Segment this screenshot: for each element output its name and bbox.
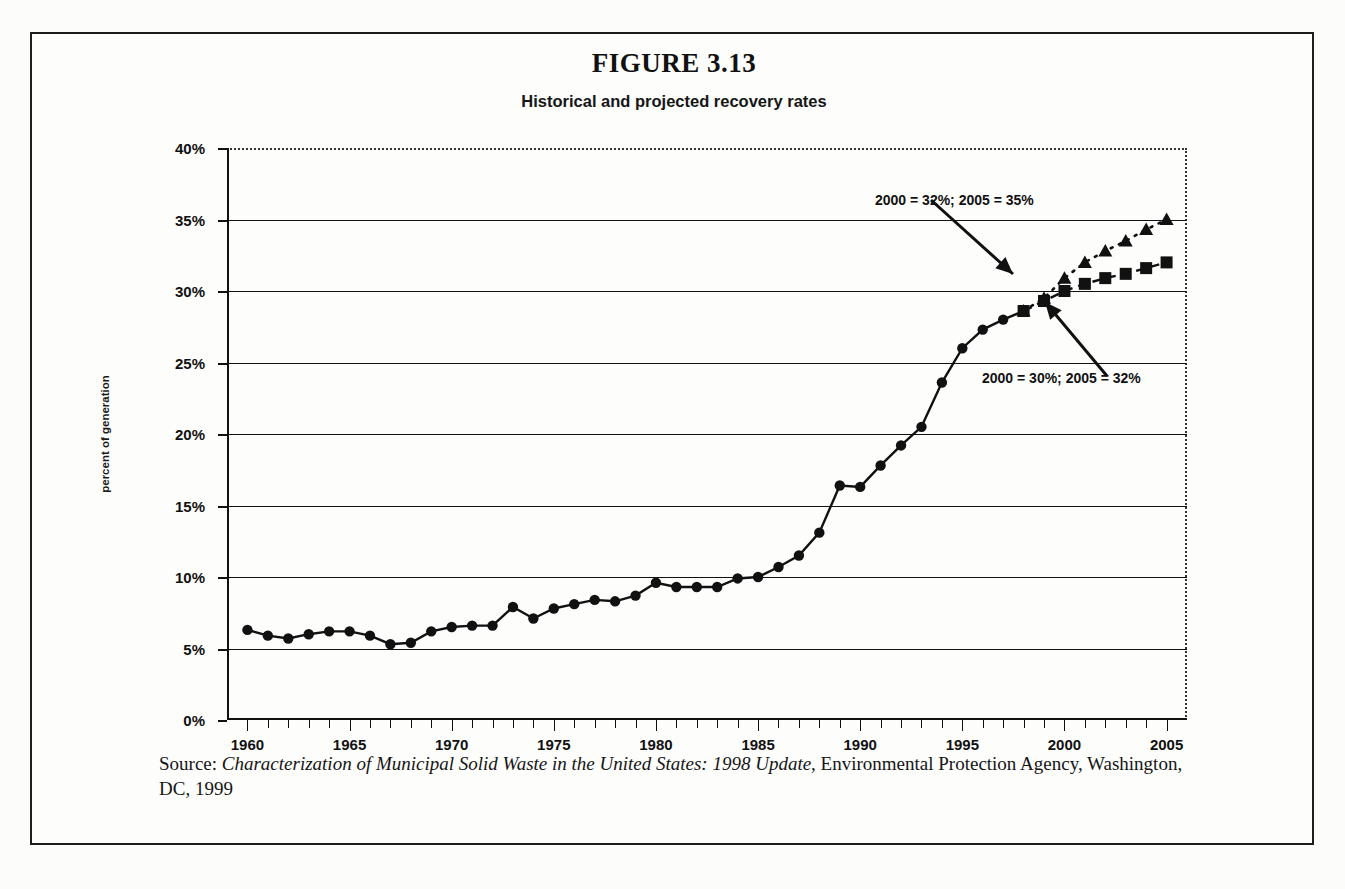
x-tick-minor <box>493 720 494 728</box>
data-point-circle <box>446 622 456 632</box>
x-tick-major <box>350 720 351 731</box>
x-tick-minor <box>1024 720 1025 728</box>
data-point-triangle <box>1098 244 1112 257</box>
data-point-circle <box>467 620 477 630</box>
data-point-circle <box>610 596 620 606</box>
data-point-circle <box>957 343 967 353</box>
y-tick-label: 30% <box>175 283 205 300</box>
x-tick-minor <box>533 720 534 728</box>
data-point-circle <box>651 578 661 588</box>
y-tick-label: 5% <box>183 640 205 657</box>
x-tick-minor <box>778 720 779 728</box>
data-point-circle <box>365 630 375 640</box>
data-point-circle <box>569 599 579 609</box>
data-point-triangle <box>1119 234 1133 247</box>
figure-number-label: FIGURE 3.13 <box>32 48 1316 79</box>
x-tick-major <box>656 720 657 731</box>
x-tick-minor <box>983 720 984 728</box>
x-tick-major <box>452 720 453 731</box>
x-tick-minor <box>472 720 473 728</box>
data-point-circle <box>753 572 763 582</box>
data-point-circle <box>712 582 722 592</box>
low-projection-arrow <box>1045 302 1107 376</box>
x-tick-major <box>758 720 759 731</box>
data-point-circle <box>385 639 395 649</box>
x-tick-minor <box>799 720 800 728</box>
data-point-circle <box>916 422 926 432</box>
y-tick <box>218 720 227 722</box>
x-tick-minor <box>840 720 841 728</box>
x-tick-minor <box>1003 720 1004 728</box>
x-tick-minor <box>676 720 677 728</box>
figure-page: FIGURE 3.13 Historical and projected rec… <box>0 0 1345 889</box>
x-tick-major <box>860 720 861 731</box>
y-axis-title: percent of generation <box>99 375 111 493</box>
data-point-circle <box>794 550 804 560</box>
data-point-circle <box>896 440 906 450</box>
x-tick-minor <box>574 720 575 728</box>
x-tick-major <box>962 720 963 731</box>
data-point-circle <box>692 582 702 592</box>
x-tick-minor <box>370 720 371 728</box>
figure-frame: FIGURE 3.13 Historical and projected rec… <box>30 32 1314 845</box>
data-point-square <box>1120 268 1132 280</box>
y-tick <box>218 291 227 293</box>
data-point-square <box>1058 285 1070 297</box>
data-point-circle <box>998 314 1008 324</box>
data-point-triangle <box>1139 223 1153 236</box>
data-point-circle <box>508 602 518 612</box>
data-point-circle <box>732 573 742 583</box>
data-point-square <box>1079 278 1091 290</box>
x-tick-minor <box>942 720 943 728</box>
data-point-circle <box>324 626 334 636</box>
data-point-triangle <box>1160 213 1174 226</box>
data-point-circle <box>589 595 599 605</box>
data-point-circle <box>549 603 559 613</box>
data-point-square <box>1140 262 1152 274</box>
y-tick-label: 25% <box>175 354 205 371</box>
x-tick-minor <box>615 720 616 728</box>
data-point-triangle <box>1078 255 1092 268</box>
high-projection-annotation: 2000 = 32%; 2005 = 35% <box>875 192 1034 208</box>
y-tick <box>218 649 227 651</box>
x-tick-minor <box>1105 720 1106 728</box>
data-point-circle <box>875 460 885 470</box>
x-tick-minor <box>1044 720 1045 728</box>
y-tick-label: 15% <box>175 497 205 514</box>
x-tick-minor <box>329 720 330 728</box>
data-point-circle <box>814 527 824 537</box>
x-tick-major <box>554 720 555 731</box>
y-tick <box>218 148 227 150</box>
y-tick <box>218 434 227 436</box>
series-layer <box>227 148 1187 720</box>
data-point-circle <box>344 626 354 636</box>
data-point-circle <box>937 377 947 387</box>
x-tick-minor <box>921 720 922 728</box>
x-tick-minor <box>288 720 289 728</box>
x-tick-minor <box>1126 720 1127 728</box>
x-tick-minor <box>881 720 882 728</box>
x-tick-minor <box>411 720 412 728</box>
y-tick-label: 10% <box>175 569 205 586</box>
x-tick-minor <box>738 720 739 728</box>
x-tick-major <box>247 720 248 731</box>
data-point-circle <box>283 633 293 643</box>
x-tick-minor <box>595 720 596 728</box>
data-point-circle <box>487 620 497 630</box>
chart-area: 0%5%10%15%20%25%30%35%40% 19601965197019… <box>227 148 1187 720</box>
x-tick-minor <box>901 720 902 728</box>
x-tick-minor <box>697 720 698 728</box>
x-tick-minor <box>431 720 432 728</box>
data-point-circle <box>528 613 538 623</box>
data-point-circle <box>242 625 252 635</box>
y-tick <box>218 577 227 579</box>
high-projection-arrow <box>931 200 1013 274</box>
data-point-square <box>1099 272 1111 284</box>
data-point-square <box>1018 305 1030 317</box>
data-point-triangle <box>1057 271 1071 284</box>
data-point-square <box>1161 256 1173 268</box>
x-tick-major <box>1167 720 1168 731</box>
x-tick-minor <box>819 720 820 728</box>
data-point-circle <box>406 638 416 648</box>
x-tick-minor <box>390 720 391 728</box>
